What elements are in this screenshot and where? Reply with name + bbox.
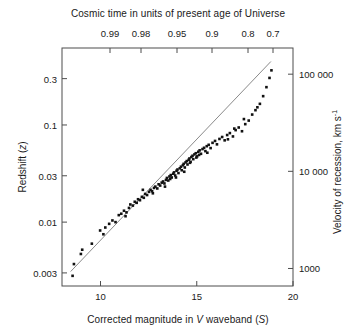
tick-label: 10	[95, 291, 106, 302]
tick-label: 0.95	[168, 28, 187, 39]
tick-label: 0.7	[266, 28, 279, 39]
tick-label: 0.1	[44, 119, 57, 130]
tick-label: 15	[191, 291, 202, 302]
tick-label: 1000	[299, 263, 320, 274]
tick-label: 0.03	[39, 170, 58, 181]
tick-label: 20	[288, 291, 299, 302]
tick-label: 0.8	[241, 28, 254, 39]
tick-label: 10 000	[299, 166, 328, 177]
tick-label: 100 000	[299, 69, 333, 80]
tick-label: 0.01	[39, 217, 58, 228]
tick-label: 0.003	[33, 267, 57, 278]
tick-label: 0.3	[44, 73, 57, 84]
tick-label: 0.99	[101, 28, 120, 39]
tick-label: 0.98	[132, 28, 151, 39]
tick-label: 0.9	[205, 28, 218, 39]
hubble-diagram-figure: Cosmic time in units of present age of U…	[0, 0, 357, 336]
